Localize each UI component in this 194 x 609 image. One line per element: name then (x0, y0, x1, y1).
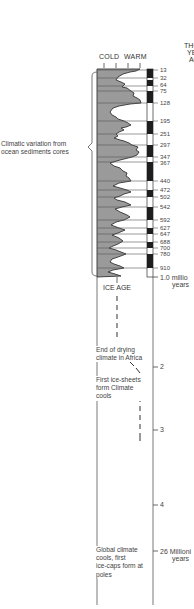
event-global-cooling: Global climate cools, first ice-caps for… (96, 546, 143, 579)
polarity-band (147, 69, 153, 277)
tick-592: 592 (160, 217, 170, 223)
tick-1-million: 1.0 millio years (160, 274, 189, 288)
tick-472: 472 (160, 187, 170, 193)
tick-542: 542 (160, 204, 170, 210)
event-end-drying-africa: End of drying climate in Africa (96, 346, 142, 362)
climate-curve-area (97, 69, 141, 277)
tick-128: 128 (160, 100, 170, 106)
million-ticks (153, 277, 158, 551)
tick-251: 251 (160, 131, 170, 137)
event-first-ice-sheets: First ice-sheets form Climate cools (96, 376, 141, 401)
tick-3-million: 3 (160, 427, 164, 433)
tick-647: 647 (160, 231, 170, 237)
tick-2-million: 2 (160, 364, 164, 370)
axis-ticks (104, 63, 140, 68)
tick-32: 32 (160, 75, 167, 81)
tick-780: 780 (160, 251, 170, 257)
ice-age-dashes (117, 296, 140, 441)
tick-4-million: 4 (160, 502, 164, 508)
tick-195: 195 (160, 118, 170, 124)
tick-26-million: 26 Millioni years (160, 548, 191, 562)
tick-297: 297 (160, 142, 170, 148)
tick-502: 502 (160, 194, 170, 200)
tick-367: 367 (160, 160, 170, 166)
tick-440: 440 (160, 178, 170, 184)
bracket-annotation: Climatic variation from ocean sediments … (1, 140, 69, 156)
ice-age-label: ICE AGE (103, 284, 131, 291)
bracket (88, 72, 97, 276)
tick-75: 75 (160, 88, 167, 94)
tick-910: 910 (160, 265, 170, 271)
tick-13: 13 (160, 67, 167, 73)
